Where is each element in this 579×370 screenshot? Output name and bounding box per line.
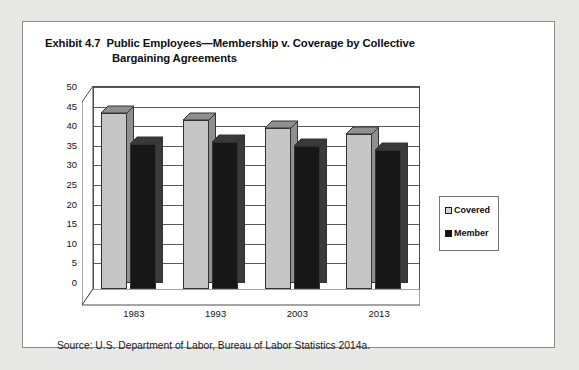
legend-item-covered: Covered [445, 205, 498, 215]
y-tick-label: 20 [66, 198, 77, 209]
legend-swatch-covered-icon [445, 207, 452, 214]
bar-top-face [101, 106, 127, 113]
bar-member-1993 [212, 135, 238, 289]
bar-covered-1983 [101, 106, 127, 289]
bar-front-face [212, 142, 238, 289]
bar-top-face [375, 143, 401, 150]
bar-covered-2003 [265, 121, 291, 289]
bar-top-face [183, 113, 209, 120]
y-tick-label: 35 [66, 139, 77, 150]
bar-top-face [130, 137, 156, 144]
legend-item-member: Member [445, 228, 498, 238]
bar-covered-2013 [346, 127, 372, 289]
bar-front-face [294, 146, 320, 289]
source-note: Source: U.S. Department of Labor, Bureau… [57, 340, 370, 351]
legend-label-covered: Covered [454, 205, 490, 215]
x-tick-label: 2003 [287, 308, 308, 319]
y-tick-label: 50 [66, 81, 77, 92]
exhibit-panel: Exhibit 4.7 Public Employees—Membership … [22, 21, 555, 348]
exhibit-title: Exhibit 4.7 Public Employees—Membership … [45, 36, 535, 66]
bar-member-2013 [375, 143, 401, 289]
plot-area [82, 86, 420, 289]
x-tick-label: 2013 [369, 308, 390, 319]
bar-side-face [320, 140, 327, 283]
page-root: Exhibit 4.7 Public Employees—Membership … [0, 0, 579, 370]
y-tick-label: 0 [72, 277, 77, 288]
exhibit-number: Exhibit 4.7 [45, 37, 100, 49]
bar-side-face [238, 136, 245, 283]
y-tick-label: 10 [66, 237, 77, 248]
bar-side-face [401, 144, 408, 283]
bar-chart: 05101520253035404550 1983199320032013 [51, 86, 436, 331]
bar-front-face [130, 144, 156, 289]
x-axis-labels: 1983199320032013 [82, 308, 420, 324]
bar-front-face [101, 113, 127, 289]
bar-front-face [265, 128, 291, 289]
exhibit-title-line1: Public Employees—Membership v. Coverage … [106, 37, 414, 49]
bar-side-face [156, 138, 163, 283]
bar-front-face [375, 150, 401, 289]
bar-member-1983 [130, 137, 156, 289]
legend-swatch-member-icon [445, 230, 452, 237]
bar-member-2003 [294, 139, 320, 289]
y-tick-label: 25 [66, 179, 77, 190]
y-axis-labels: 05101520253035404550 [51, 86, 77, 289]
bar-top-face [346, 127, 372, 134]
bar-series-group [93, 86, 420, 289]
bar-top-face [212, 135, 238, 142]
y-tick-label: 45 [66, 100, 77, 111]
legend-label-member: Member [454, 228, 489, 238]
y-tick-label: 15 [66, 218, 77, 229]
floor-shape [82, 289, 420, 306]
bar-covered-1993 [183, 113, 209, 289]
x-tick-label: 1983 [123, 308, 144, 319]
plot-floor [82, 289, 420, 305]
y-tick-label: 5 [72, 257, 77, 268]
y-tick-label: 30 [66, 159, 77, 170]
y-tick-label: 40 [66, 120, 77, 131]
bar-front-face [183, 120, 209, 289]
x-tick-label: 1993 [205, 308, 226, 319]
bar-top-face [265, 121, 291, 128]
bar-front-face [346, 134, 372, 289]
exhibit-title-line2: Bargaining Agreements [45, 51, 535, 66]
bar-top-face [294, 139, 320, 146]
chart-legend: Covered Member [439, 196, 499, 251]
